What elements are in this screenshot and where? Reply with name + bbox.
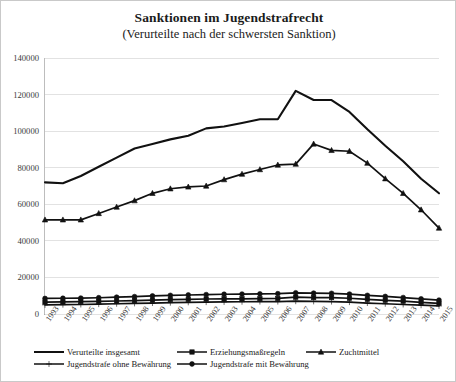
data-point-circle bbox=[311, 291, 316, 296]
y-axis-tick-label: 60000 bbox=[18, 199, 39, 209]
data-point-circle bbox=[204, 292, 209, 297]
y-axis-tick-label: 140000 bbox=[13, 53, 39, 63]
y-axis-tick-label: 0 bbox=[35, 309, 39, 319]
y-axis-tick-label: 80000 bbox=[18, 163, 39, 173]
data-point-circle bbox=[190, 362, 195, 367]
y-axis-tick-label: 100000 bbox=[13, 126, 39, 136]
gridlines bbox=[45, 58, 439, 314]
legend-label: Jugendstrafe ohne Bewährung bbox=[67, 359, 171, 369]
data-point-circle bbox=[61, 296, 66, 301]
data-point-circle bbox=[401, 295, 406, 300]
data-point-circle bbox=[132, 294, 137, 299]
data-point-circle bbox=[437, 298, 442, 303]
plot-area: 140000120000100000800006000040000200000 … bbox=[44, 58, 439, 315]
chart-legend: Verurteilte insgesamtErziehungsmaßregeln… bbox=[1, 347, 456, 379]
data-point-circle bbox=[186, 293, 191, 298]
y-axis-tick-label: 20000 bbox=[18, 272, 39, 282]
data-point-circle bbox=[96, 295, 101, 300]
plot-canvas bbox=[45, 58, 439, 314]
legend-label: Verurteilte insgesamt bbox=[67, 347, 140, 357]
data-point-square bbox=[190, 350, 194, 354]
legend-item[interactable]: Jugendstrafe ohne Bewährung bbox=[34, 359, 171, 369]
legend-item[interactable]: Jugendstrafe mit Bewährung bbox=[177, 359, 309, 369]
data-point-circle bbox=[347, 292, 352, 297]
legend-swatch-cross-icon bbox=[34, 359, 64, 369]
chart-title-block: Sanktionen im Jugendstrafrecht (Verurtei… bbox=[1, 10, 456, 42]
data-point-circle bbox=[365, 293, 370, 298]
y-axis-tick-label: 120000 bbox=[13, 90, 39, 100]
series-lines bbox=[42, 91, 442, 309]
data-point-circle bbox=[43, 296, 48, 301]
legend-swatch-none-icon bbox=[34, 347, 64, 357]
series-2 bbox=[42, 141, 441, 230]
data-point-circle bbox=[275, 291, 280, 296]
data-point-circle bbox=[383, 294, 388, 299]
legend-item[interactable]: Erziehungsmaßregeln bbox=[177, 347, 285, 357]
series-0 bbox=[45, 91, 439, 193]
series-line bbox=[45, 91, 439, 193]
data-point-cross bbox=[46, 361, 52, 367]
data-point-circle bbox=[258, 291, 263, 296]
data-point-circle bbox=[78, 296, 83, 301]
data-point-circle bbox=[240, 292, 245, 297]
data-point-circle bbox=[329, 291, 334, 296]
legend-label: Jugendstrafe mit Bewährung bbox=[210, 359, 309, 369]
y-axis-tick-label: 40000 bbox=[18, 236, 39, 246]
legend-item[interactable]: Verurteilte insgesamt bbox=[34, 347, 140, 357]
legend-label: Zuchtmittel bbox=[339, 347, 379, 357]
data-point-circle bbox=[114, 295, 119, 300]
data-point-circle bbox=[293, 290, 298, 295]
data-point-triangle bbox=[311, 141, 316, 146]
chart-subtitle: (Verurteilte nach der schwersten Sanktio… bbox=[1, 26, 456, 42]
chart-figure: Sanktionen im Jugendstrafrecht (Verurtei… bbox=[0, 0, 456, 382]
legend-swatch-triangle-icon bbox=[306, 347, 336, 357]
x-axis-tick-label: 2015 bbox=[438, 305, 455, 324]
series-line bbox=[45, 144, 439, 228]
legend-swatch-circle-icon bbox=[177, 359, 207, 369]
data-point-circle bbox=[222, 292, 227, 297]
legend-swatch-square-icon bbox=[177, 347, 207, 357]
legend-item[interactable]: Zuchtmittel bbox=[306, 347, 379, 357]
legend-label: Erziehungsmaßregeln bbox=[210, 347, 285, 357]
data-point-circle bbox=[168, 293, 173, 298]
data-point-circle bbox=[150, 293, 155, 298]
page-title: Sanktionen im Jugendstrafrecht bbox=[1, 10, 456, 26]
data-point-circle bbox=[419, 296, 424, 301]
